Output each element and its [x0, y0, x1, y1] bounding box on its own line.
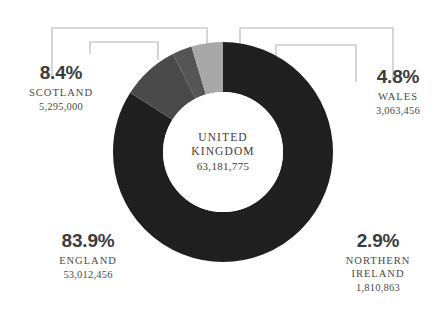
callout-wales: 4.8% WALES 3,063,456	[352, 66, 444, 117]
callout-england-count: 53,012,456	[28, 268, 148, 281]
callout-northern-ireland-name-line2: IRELAND	[318, 267, 438, 280]
callout-northern-ireland-count: 1,810,863	[318, 281, 438, 294]
callout-scotland: 8.4% SCOTLAND 5,295,000	[6, 62, 116, 113]
callout-wales-percent: 4.8%	[352, 66, 444, 88]
callout-wales-name: WALES	[352, 90, 444, 103]
callout-northern-ireland-name-line1: NORTHERN	[318, 254, 438, 267]
callout-northern-ireland: 2.9% NORTHERN IRELAND 1,810,863	[318, 230, 438, 294]
callout-england-name: ENGLAND	[28, 254, 148, 267]
callout-scotland-name: SCOTLAND	[6, 86, 116, 99]
chart-canvas: UNITED KINGDOM 63,181,775 8.4% SCOTLAND …	[0, 0, 446, 316]
callout-scotland-count: 5,295,000	[6, 100, 116, 113]
callout-scotland-percent: 8.4%	[6, 62, 116, 84]
donut-hole	[163, 92, 283, 212]
donut-chart	[113, 42, 333, 262]
callout-england-percent: 83.9%	[28, 230, 148, 252]
callout-wales-count: 3,063,456	[352, 104, 444, 117]
callout-england: 83.9% ENGLAND 53,012,456	[28, 230, 148, 281]
callout-northern-ireland-percent: 2.9%	[318, 230, 438, 252]
